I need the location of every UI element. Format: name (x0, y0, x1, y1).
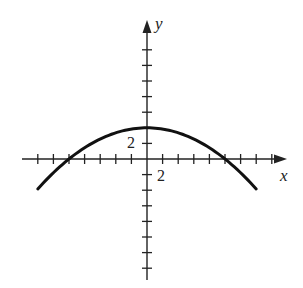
y-axis-arrow-icon (143, 20, 152, 33)
coordinate-plane (0, 0, 303, 288)
y-tick-label: 2 (127, 135, 135, 151)
axes (22, 30, 280, 280)
x-axis-arrow-icon (274, 155, 287, 164)
x-tick-label: 2 (157, 168, 165, 184)
x-axis-label: x (280, 167, 288, 184)
y-axis-label: y (155, 15, 163, 32)
